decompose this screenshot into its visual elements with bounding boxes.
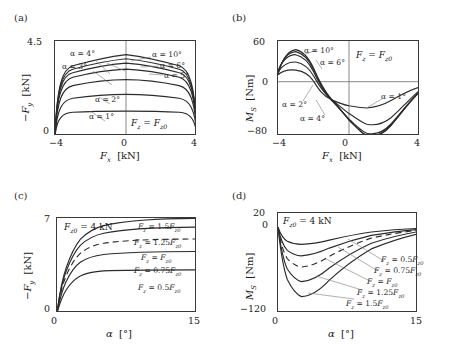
panel-b-ytick-max: 60 xyxy=(253,36,265,47)
panel-b-load-note: Fz = Fz0 xyxy=(356,50,392,62)
panel-a-ytick-max: 4.5 xyxy=(27,36,42,47)
panel-d-xtick-min: 0 xyxy=(272,315,278,326)
panel-a-annotation-alpha6: α = 6° xyxy=(160,61,185,70)
panel-b-ytick-min: −80 xyxy=(247,125,267,136)
panel-a-annotation-alpha3: α = 3° xyxy=(62,62,87,71)
panel-b-ytick-mid: 0 xyxy=(262,76,268,87)
panel-a-x-axis-label: Fx [kN] xyxy=(100,150,140,164)
panel-a-xtick-min: −4 xyxy=(49,137,63,148)
panel-b-annotation-alpha1: α = 1° xyxy=(381,92,406,101)
panel-c-xtick-min: 0 xyxy=(51,315,57,326)
panel-b-xtick-min: −4 xyxy=(272,137,286,148)
panel-b-letter: (b) xyxy=(232,12,246,23)
panel-b-annotation-alpha6: α = 6° xyxy=(320,58,345,67)
panel-d-annotation-fz075: Fz = 0.75Fz0 xyxy=(374,266,421,277)
panel-d-ytick-max: 20 xyxy=(253,207,265,218)
panel-d-ytick-mid: 0 xyxy=(262,219,268,230)
panel-a-load-note: Fz = Fz0 xyxy=(131,118,167,130)
panel-b-x-axis-label: Fx [kN] xyxy=(322,150,362,164)
panel-c-x-axis-label: α [°] xyxy=(106,328,132,339)
panel-d-annotation-fz125: Fz = 1.25Fz0 xyxy=(357,288,404,299)
panel-c-annotation-fz125: Fz = 1.25Fz0 xyxy=(134,238,181,249)
panel-c-ytick-max: 7 xyxy=(44,213,50,224)
panel-b-xtick-mid: 0 xyxy=(342,137,348,148)
panel-a-annotation-alpha10: α = 10° xyxy=(152,50,182,59)
panel-b-y-axis-label: MS [Nm] xyxy=(244,75,258,122)
panel-c-annotation-fz075: Fz = 0.75Fz0 xyxy=(134,266,181,277)
panel-a-y-axis-label: −Fy [kN] xyxy=(20,74,34,122)
panel-b-xtick-max: 4 xyxy=(414,137,420,148)
panel-c-annotation-fz150: Fz = 1.5Fz0 xyxy=(138,222,181,233)
panel-a-annotation-alpha4: α = 4° xyxy=(70,49,95,58)
panel-b-annotation-alpha2: α = 2° xyxy=(282,100,307,109)
panel-d-load-note: Fz0 = 4 kN xyxy=(283,216,332,228)
panel-d-x-axis-label: α [°] xyxy=(328,328,354,339)
panel-a-xtick-max: 4 xyxy=(191,137,197,148)
panel-a-annotation-alpha2: α = 2° xyxy=(95,95,120,104)
panel-c-letter: (c) xyxy=(14,190,27,201)
panel-c-annotation-fz050: Fz = 0.5Fz0 xyxy=(138,283,181,294)
panel-a-letter: (a) xyxy=(14,12,28,23)
panel-c-y-axis-label: −Fy [kN] xyxy=(22,252,36,300)
panel-b-plot-area xyxy=(277,40,419,135)
panel-c-ytick-min: 0 xyxy=(44,303,50,314)
panel-d-y-axis-label: MS [Nm] xyxy=(244,253,258,300)
panel-d-ytick-min: −120 xyxy=(240,303,266,314)
panel-c-xtick-max: 15 xyxy=(188,315,200,326)
panel-b-annotation-alpha10: α = 10° xyxy=(304,46,334,55)
panel-c-annotation-fz100: Fz = Fz0 xyxy=(141,253,171,264)
panel-a-xtick-mid: 0 xyxy=(121,137,127,148)
panel-d-letter: (d) xyxy=(232,190,246,201)
panel-a-annotation-alpha5: α = 5° xyxy=(164,71,189,80)
panel-c-load-note: Fz0 = 4 kN xyxy=(64,222,113,234)
panel-d-annotation-fz150: Fz = 1.5Fz0 xyxy=(346,299,389,310)
panel-d-annotation-fz100: Fz = Fz0 xyxy=(367,277,397,288)
panel-d-xtick-max: 15 xyxy=(410,315,422,326)
panel-a-ytick-min: 0 xyxy=(43,125,49,136)
panel-b-annotation-alpha4: α = 4° xyxy=(300,114,325,123)
panel-a-annotation-alpha1: α = 1° xyxy=(89,112,114,121)
panel-d-annotation-fz050: Fz = 0.5Fz0 xyxy=(381,255,424,266)
